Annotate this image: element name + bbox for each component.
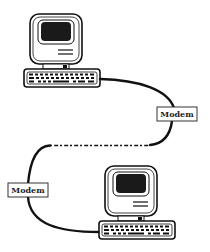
modem-label: Modem — [160, 109, 194, 119]
modem-connection-diagram: Modem Modem — [0, 0, 210, 252]
cable-modem-left-to-bottom — [28, 197, 99, 232]
computer-bottom — [99, 166, 175, 239]
cable-modem-right-down — [150, 121, 172, 145]
modem-left: Modem — [8, 183, 48, 197]
computer-icon — [24, 14, 100, 87]
cable-top-to-modem-right — [100, 79, 174, 108]
cable-phone-to-modem-left — [28, 146, 50, 185]
modem-label: Modem — [11, 185, 45, 195]
modem-right: Modem — [157, 107, 197, 121]
computer-icon — [99, 166, 175, 239]
computer-top — [24, 14, 100, 87]
